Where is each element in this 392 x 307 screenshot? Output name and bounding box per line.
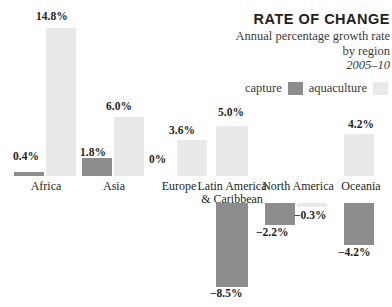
bar-latam-capture bbox=[216, 203, 248, 287]
value-label-asia-aquaculture: 6.0% bbox=[106, 100, 132, 112]
bar-asia-capture bbox=[82, 158, 112, 176]
value-label-northam-aquaculture: −0.3% bbox=[294, 209, 326, 221]
value-label-europe-capture: 0% bbox=[149, 153, 166, 165]
value-label-latam-aquaculture: 5.0% bbox=[218, 106, 244, 118]
value-label-asia-capture: 1.8% bbox=[80, 146, 106, 158]
bar-northam-capture bbox=[265, 203, 295, 225]
bar-africa-aquaculture bbox=[46, 28, 76, 176]
bar-group-north-america: −0.3% −2.2% North America bbox=[256, 0, 340, 307]
category-label-africa: Africa bbox=[8, 180, 84, 193]
bar-oceania-aquaculture bbox=[344, 134, 374, 176]
plot-area: 0.4% 14.8% Africa 1.8% 6.0% Asia 0% 3.6%… bbox=[0, 0, 392, 307]
chart-root: RATE OF CHANGE Annual percentage growth … bbox=[0, 0, 392, 307]
bar-oceania-capture bbox=[344, 203, 374, 245]
value-label-africa-capture: 0.4% bbox=[13, 150, 39, 162]
value-label-northam-capture: −2.2% bbox=[256, 226, 288, 238]
bar-northam-aquaculture bbox=[297, 203, 327, 207]
value-label-africa-aquaculture: 14.8% bbox=[36, 10, 68, 22]
bar-group-africa: 0.4% 14.8% Africa bbox=[8, 0, 84, 307]
value-label-latam-capture: −8.5% bbox=[210, 287, 242, 299]
bar-group-oceania: 4.2% −4.2% Oceania bbox=[330, 0, 392, 307]
category-label-oceania: Oceania bbox=[330, 180, 392, 193]
bar-asia-aquaculture bbox=[114, 117, 144, 176]
bar-africa-capture bbox=[14, 172, 44, 176]
category-label-north-america: North America bbox=[256, 180, 340, 193]
value-label-oceania-capture: −4.2% bbox=[338, 246, 370, 258]
bar-latam-aquaculture bbox=[216, 126, 248, 176]
value-label-oceania-aquaculture: 4.2% bbox=[348, 118, 374, 130]
